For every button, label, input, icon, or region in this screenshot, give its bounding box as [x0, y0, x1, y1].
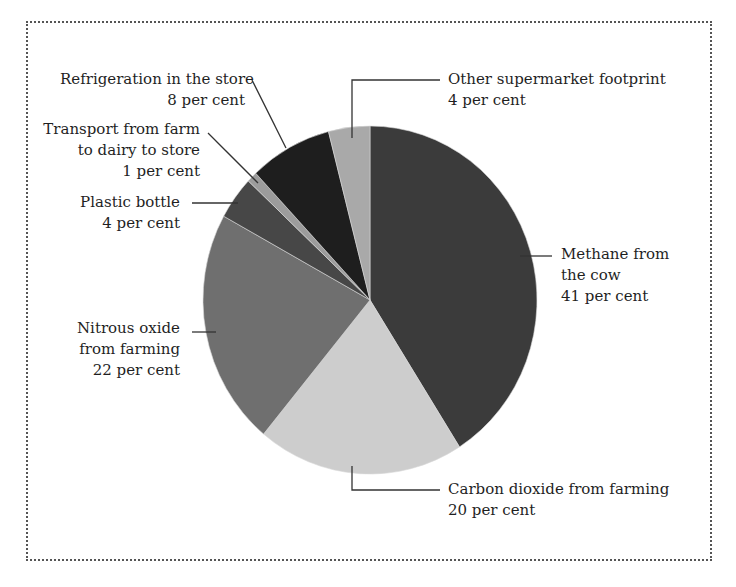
label-value: 41 per cent: [561, 286, 669, 307]
label-value: 4 per cent: [40, 213, 180, 234]
label-refrigeration: Refrigeration in the store 8 per cent: [60, 69, 245, 111]
leader-transport: [208, 133, 258, 183]
label-nitrous-oxide: Nitrous oxide from farming 22 per cent: [40, 318, 180, 381]
label-line: Carbon dioxide from farming: [448, 479, 669, 500]
label-line: to dairy to store: [30, 140, 200, 161]
label-line: Plastic bottle: [40, 192, 180, 213]
label-line: Nitrous oxide: [40, 318, 180, 339]
label-line: Refrigeration in the store: [60, 69, 245, 90]
label-line: Methane from: [561, 244, 669, 265]
label-value: 20 per cent: [448, 500, 669, 521]
label-value: 4 per cent: [448, 90, 666, 111]
label-plastic-bottle: Plastic bottle 4 per cent: [40, 192, 180, 234]
label-carbon-dioxide: Carbon dioxide from farming 20 per cent: [448, 479, 669, 521]
label-other-supermarket: Other supermarket footprint 4 per cent: [448, 69, 666, 111]
label-value: 8 per cent: [60, 90, 245, 111]
label-transport: Transport from farm to dairy to store 1 …: [30, 119, 200, 182]
label-line: Other supermarket footprint: [448, 69, 666, 90]
label-line: from farming: [40, 339, 180, 360]
label-line: Transport from farm: [30, 119, 200, 140]
label-value: 1 per cent: [30, 161, 200, 182]
label-methane: Methane from the cow 41 per cent: [561, 244, 669, 307]
label-value: 22 per cent: [40, 360, 180, 381]
leader-refrigeration: [252, 80, 286, 148]
label-line: the cow: [561, 265, 669, 286]
